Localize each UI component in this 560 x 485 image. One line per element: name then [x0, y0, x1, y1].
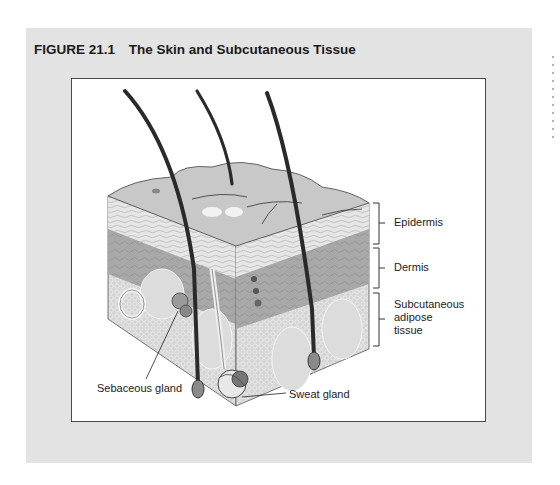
label-sebaceous-gland: Sebaceous gland	[97, 382, 182, 395]
margin-dotted-rule	[552, 56, 555, 144]
label-subcutaneous-line1: Subcutaneous	[394, 298, 464, 311]
figure-number: FIGURE 21.1	[34, 42, 115, 57]
label-dermis: Dermis	[394, 261, 429, 274]
skin-cross-section-illustration	[72, 79, 487, 423]
figure-title: The Skin and Subcutaneous Tissue	[129, 42, 356, 57]
layer-brackets	[373, 203, 385, 346]
label-sweat-gland: Sweat gland	[289, 388, 350, 401]
figure-caption: FIGURE 21.1 The Skin and Subcutaneous Ti…	[34, 42, 356, 57]
label-subcutaneous-line2: adipose	[394, 311, 433, 324]
figure-illustration-frame: Epidermis Dermis Subcutaneous adipose ti…	[71, 78, 486, 422]
figure-panel: FIGURE 21.1 The Skin and Subcutaneous Ti…	[26, 28, 532, 463]
label-subcutaneous-line3: tissue	[394, 324, 423, 337]
label-epidermis: Epidermis	[394, 216, 443, 229]
